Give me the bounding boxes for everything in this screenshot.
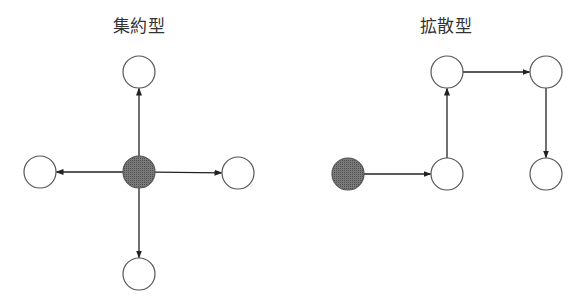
filled-node-start — [332, 158, 364, 190]
node-right — [222, 157, 254, 189]
diffused-diagram — [332, 56, 562, 190]
node-n1 — [431, 158, 463, 190]
diagram-canvas — [0, 0, 580, 304]
filled-node-center — [123, 156, 155, 188]
arrow-center-to-right — [155, 172, 222, 173]
node-top — [123, 56, 155, 88]
node-n2 — [431, 56, 463, 88]
node-n4 — [530, 158, 562, 190]
node-bottom — [123, 258, 155, 290]
centralized-diagram — [24, 56, 254, 290]
node-left — [24, 156, 56, 188]
node-n3 — [530, 56, 562, 88]
